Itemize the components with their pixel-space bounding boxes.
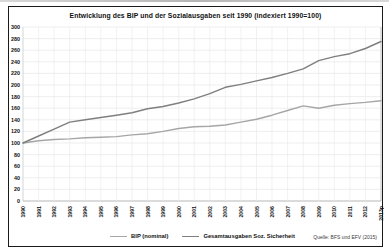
- legend-label-sozialausgaben: Gesamtausgaben Soz. Sicherheit: [203, 233, 295, 239]
- svg-text:1998: 1998: [145, 206, 151, 218]
- svg-text:2011: 2011: [347, 206, 353, 217]
- svg-text:100: 100: [11, 140, 20, 146]
- svg-text:2004: 2004: [238, 206, 244, 218]
- svg-text:1991: 1991: [36, 206, 42, 218]
- svg-text:40: 40: [14, 175, 20, 181]
- svg-text:2002: 2002: [207, 206, 213, 218]
- sozialausgaben-line-swatch-icon: [182, 236, 199, 237]
- svg-text:1995: 1995: [98, 206, 104, 218]
- svg-text:2013p: 2013p: [378, 206, 384, 221]
- svg-text:1992: 1992: [51, 206, 57, 218]
- svg-text:2012: 2012: [362, 206, 368, 218]
- svg-text:2003: 2003: [222, 206, 228, 218]
- bip-line-swatch-icon: [110, 236, 127, 237]
- svg-text:2000: 2000: [176, 206, 182, 218]
- legend-entry-sozialausgaben: Gesamtausgaben Soz. Sicherheit: [182, 233, 295, 239]
- svg-text:2005: 2005: [254, 206, 260, 218]
- svg-text:2009: 2009: [316, 206, 322, 218]
- svg-text:240: 240: [11, 59, 20, 65]
- svg-text:260: 260: [11, 47, 20, 53]
- svg-text:300: 300: [11, 24, 20, 30]
- svg-text:20: 20: [14, 186, 20, 192]
- svg-text:0: 0: [17, 198, 20, 204]
- svg-text:60: 60: [14, 163, 20, 169]
- svg-text:2001: 2001: [191, 206, 197, 218]
- svg-text:2008: 2008: [300, 206, 306, 218]
- page-edge-artifact: [0, 0, 389, 2]
- svg-text:80: 80: [14, 152, 20, 158]
- svg-text:200: 200: [11, 82, 20, 88]
- svg-text:280: 280: [11, 36, 20, 42]
- legend-label-bip: BIP (nominal): [131, 233, 168, 239]
- svg-text:1996: 1996: [113, 206, 119, 218]
- svg-text:160: 160: [11, 105, 20, 111]
- svg-text:180: 180: [11, 94, 20, 100]
- svg-text:1993: 1993: [67, 206, 73, 218]
- svg-text:1990: 1990: [20, 206, 26, 218]
- legend-entry-bip: BIP (nominal): [110, 233, 168, 239]
- svg-text:140: 140: [11, 117, 20, 123]
- svg-text:120: 120: [11, 128, 20, 134]
- svg-text:220: 220: [11, 70, 20, 76]
- svg-text:1999: 1999: [160, 206, 166, 218]
- svg-text:2007: 2007: [285, 206, 291, 218]
- svg-text:1997: 1997: [129, 206, 135, 218]
- svg-text:2006: 2006: [269, 206, 275, 218]
- source-note: Quelle: BFS und EFV (2015): [313, 234, 377, 240]
- chart-plot: 0204060801001201401601802002202402602803…: [9, 7, 384, 248]
- svg-text:2010: 2010: [331, 206, 337, 218]
- chart-figure: Entwicklung des BIP und der Sozialausgab…: [8, 6, 383, 247]
- svg-text:1994: 1994: [82, 206, 88, 218]
